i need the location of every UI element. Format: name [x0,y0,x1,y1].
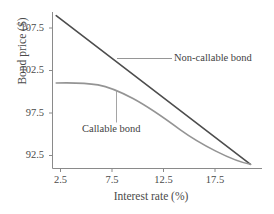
y-axis-ticks [49,28,53,156]
bond-price-chart: Bond price ($) Interest rate (%) 107.5 1… [0,0,274,214]
x-axis-title: Interest rate (%) [52,190,250,202]
y-axis-title: Bond price ($) [16,0,28,111]
y-tick-label-92-5: 92.5 [8,149,44,160]
series-non-callable-bond [56,16,250,165]
x-tick-label-2-5: 2.5 [41,174,81,185]
annotation-callable-bond: Callable bond [82,123,141,134]
x-tick-label-7-5: 7.5 [92,174,132,185]
y-tick-label-102-5: 102.5 [8,64,44,75]
x-tick-label-12-5: 12.5 [144,174,184,185]
x-tick-label-17-5: 17.5 [195,174,235,185]
annotation-non-callable-bond: Non-callable bond [174,52,252,63]
x-axis-ticks [61,169,216,173]
y-tick-label-107-5: 107.5 [8,22,44,33]
y-tick-label-97-5: 97.5 [8,107,44,118]
